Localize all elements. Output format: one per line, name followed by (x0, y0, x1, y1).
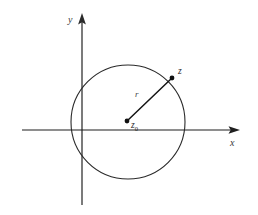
y-axis (78, 13, 86, 205)
figure-canvas (0, 0, 258, 215)
y-axis-label: y (68, 15, 72, 25)
radius-label: r (135, 90, 139, 99)
center-point-label: z0 (131, 121, 138, 132)
radius-segment (127, 78, 172, 121)
boundary-point-label: z (178, 67, 182, 77)
x-axis-label: x (230, 138, 234, 148)
center-point-label-subscript: 0 (135, 125, 138, 132)
complex-plane-figure: y x z z0 r (0, 0, 258, 215)
boundary-point-marker (170, 76, 175, 81)
center-point-marker (125, 119, 130, 124)
